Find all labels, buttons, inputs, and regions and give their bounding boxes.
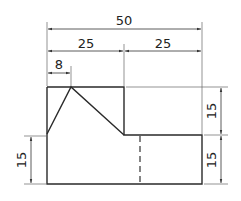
- label-right-width: 25: [155, 36, 172, 51]
- technical-drawing: 50 25 25 8 15 15 15: [0, 0, 241, 201]
- part-outline: [47, 87, 202, 184]
- label-left-lower-height: 15: [14, 152, 29, 169]
- label-peak-offset: 8: [55, 57, 63, 72]
- dimension-lines: [31, 29, 221, 183]
- label-right-upper-height: 15: [204, 103, 219, 120]
- label-overall-width: 50: [116, 13, 133, 28]
- label-right-lower-height: 15: [204, 152, 219, 169]
- notch-profile: [47, 87, 124, 135]
- label-left-width: 25: [78, 36, 95, 51]
- extension-lines: [24, 22, 228, 184]
